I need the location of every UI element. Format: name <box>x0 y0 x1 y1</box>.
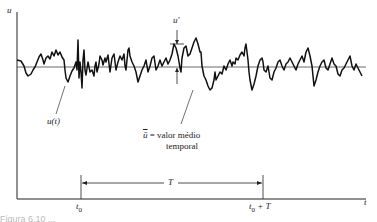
t0T-label: t0 + T <box>249 202 271 214</box>
fluctuation-label: u' <box>173 16 179 25</box>
figure-caption: Figura 6.10 ... <box>0 214 377 222</box>
t0-subscript: 0 <box>79 206 83 214</box>
mean-desc-line2: temporal <box>166 142 198 151</box>
interval-label: T <box>168 178 173 187</box>
mean-label: ū = valor médio <box>143 131 200 140</box>
mean-equals: = <box>150 130 155 140</box>
t0T-plus-T: + T <box>255 201 271 211</box>
mean-leader <box>181 90 193 124</box>
t0-label: t0 <box>76 202 82 214</box>
y-axis-label: u <box>7 6 12 15</box>
x-axis-label: t <box>364 198 367 207</box>
uprime-arrowhead-bottom <box>175 68 179 72</box>
interval-arrowhead-left <box>82 181 87 185</box>
signal-leader <box>56 86 65 114</box>
signal-label: u(t) <box>47 117 60 126</box>
mean-symbol: ū <box>143 130 148 140</box>
signal-curve <box>17 38 362 90</box>
uprime-arrowhead-top <box>175 40 179 44</box>
interval-arrowhead-right <box>257 181 262 185</box>
turbulent-signal-diagram <box>0 0 377 222</box>
mean-desc-line1: valor médio <box>157 130 200 140</box>
